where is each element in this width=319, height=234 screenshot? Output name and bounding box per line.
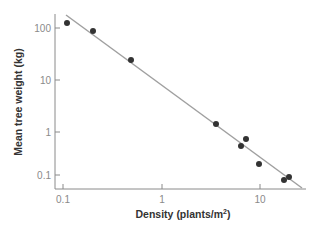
data-point	[243, 136, 249, 142]
x-tick-label: 0.1	[56, 194, 70, 205]
data-point	[213, 121, 219, 127]
data-point	[128, 57, 134, 63]
x-tick-label: 1	[159, 194, 165, 205]
x-axis-label: Density (plants/m2)	[136, 208, 231, 220]
data-point	[281, 177, 287, 183]
y-tick-label: 1	[45, 127, 51, 138]
y-axis-label: Mean tree weight (kg)	[12, 48, 24, 155]
x-ticks: 0.1 1 10	[56, 184, 266, 205]
y-tick-label: 0.1	[37, 170, 51, 181]
chart: 100 10 1 0.1 0.1 1 10 Density (plants/m2…	[0, 0, 319, 234]
data-point	[286, 174, 292, 180]
x-tick-label: 10	[254, 194, 266, 205]
y-tick-label: 10	[40, 75, 52, 86]
data-point	[238, 143, 244, 149]
trend-line	[66, 15, 302, 188]
data-point	[90, 28, 96, 34]
y-tick-label: 100	[34, 23, 51, 34]
data-points	[64, 20, 292, 183]
y-ticks: 100 10 1 0.1	[34, 23, 60, 181]
data-point	[64, 20, 70, 26]
data-point	[256, 161, 262, 167]
